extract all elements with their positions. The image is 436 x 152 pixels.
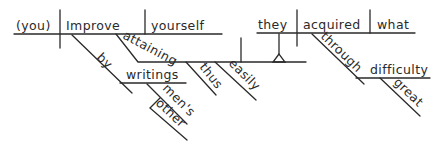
sentence-diagram: (you) Improve yourself by writings men's… <box>0 0 436 152</box>
pedestal-base <box>273 54 285 62</box>
word-subject: (you) <box>16 18 51 33</box>
word-verb: Improve <box>66 18 120 33</box>
word-clause-verb: acquired <box>303 17 361 32</box>
word-clause-subject: they <box>258 17 288 32</box>
word-clause-object: what <box>377 17 409 32</box>
word-great: great <box>391 74 427 109</box>
word-through: through <box>318 28 366 75</box>
word-by: by <box>94 50 116 72</box>
word-thus: thus <box>197 60 227 92</box>
word-object: yourself <box>151 18 205 33</box>
word-easily: easily <box>226 56 264 94</box>
word-difficulty: difficulty <box>370 62 428 77</box>
